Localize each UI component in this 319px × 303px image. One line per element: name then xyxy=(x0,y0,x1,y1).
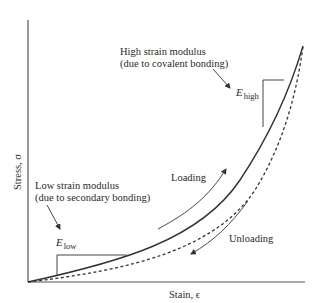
e-low-subscript: low xyxy=(64,241,77,251)
e-low-slope-triangle xyxy=(57,255,127,275)
e-high-symbol-main: E xyxy=(236,86,243,98)
y-axis-label: Stress, σ xyxy=(12,154,23,190)
e-high-subscript: high xyxy=(244,91,259,101)
e-low-symbol-main: E xyxy=(56,236,63,248)
e-high-pointer-arrow xyxy=(213,69,230,88)
e-high-slope-triangle xyxy=(263,80,284,127)
low-strain-modulus-line2: (due to secondary bonding) xyxy=(35,192,150,204)
loading-label: Loading xyxy=(171,172,206,184)
e-low-symbol: Elow xyxy=(56,236,76,249)
low-strain-modulus-line1: Low strain modulus xyxy=(35,180,150,192)
high-strain-modulus-line1: High strain modulus xyxy=(120,46,228,58)
high-strain-modulus-line2: (due to covalent bonding) xyxy=(120,58,228,70)
e-high-symbol: Ehigh xyxy=(236,86,259,99)
high-strain-modulus-label: High strain modulus (due to covalent bon… xyxy=(120,46,228,70)
x-axis-label: Stain, ϵ xyxy=(169,289,200,301)
unloading-label: Unloading xyxy=(229,233,273,245)
e-low-pointer-arrow xyxy=(47,205,60,229)
low-strain-modulus-label: Low strain modulus (due to secondary bon… xyxy=(35,180,150,204)
